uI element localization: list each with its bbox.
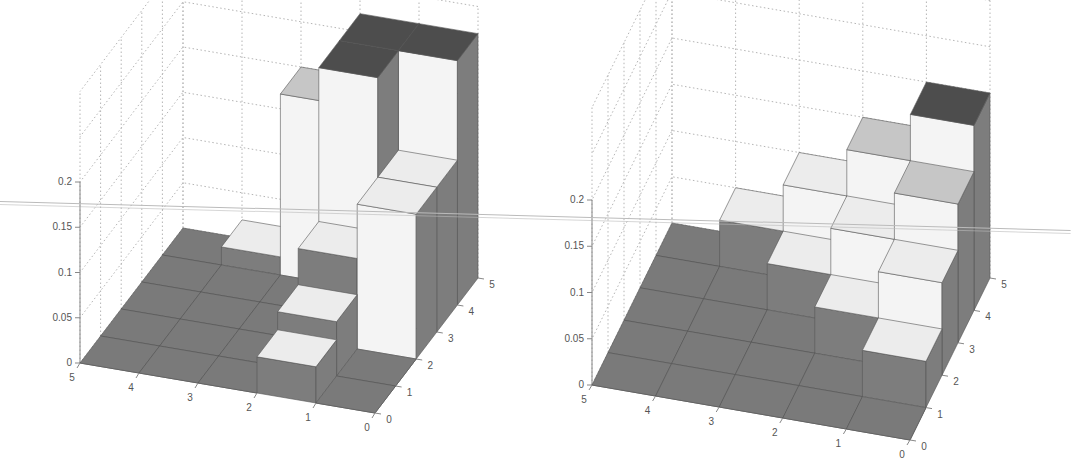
- z-tick-label: 0.1: [570, 287, 584, 298]
- y-tick-label: 1: [407, 387, 413, 398]
- y-tick-label: 1: [937, 409, 943, 420]
- right-chart-canvas: 00.050.10.150.2012345012345: [530, 0, 1071, 471]
- y-tick-label: 0: [386, 414, 392, 425]
- x-tick-label: 0: [899, 449, 905, 460]
- z-tick-label: 0: [66, 357, 72, 368]
- y-tick-label: 5: [1001, 279, 1007, 290]
- z-tick-label: 0.1: [58, 267, 72, 278]
- y-tick-label: 4: [469, 306, 475, 317]
- bar-cell: [357, 177, 437, 359]
- y-tick-label: 3: [969, 344, 975, 355]
- y-tick-label: 5: [489, 279, 495, 290]
- bars: [592, 82, 990, 440]
- z-tick-label: 0.15: [565, 240, 585, 251]
- x-tick-label: 3: [708, 416, 714, 427]
- x-tick-label: 5: [581, 394, 587, 405]
- x-tick-label: 1: [836, 438, 842, 449]
- y-tick-label: 0: [921, 441, 927, 452]
- x-tick-label: 2: [772, 427, 778, 438]
- y-tick-label: 4: [985, 311, 991, 322]
- z-tick-label: 0.05: [565, 333, 585, 344]
- z-tick-label: 0.2: [58, 176, 72, 187]
- z-tick-label: 0: [578, 379, 584, 390]
- z-axis: 00.050.10.150.2: [565, 194, 592, 390]
- x-tick-label: 5: [69, 372, 75, 383]
- bar-cell: [862, 318, 942, 408]
- z-tick-label: 0.2: [570, 194, 584, 205]
- y-tick-label: 2: [953, 376, 959, 387]
- right-3d-bar-chart: 00.050.10.150.2012345012345: [530, 0, 1071, 471]
- y-tick-label: 3: [448, 333, 454, 344]
- y-tick-label: 2: [427, 360, 433, 371]
- x-tick-label: 4: [128, 382, 134, 393]
- x-tick-label: 4: [645, 405, 651, 416]
- x-tick-label: 3: [187, 392, 193, 403]
- z-tick-label: 0.05: [53, 312, 73, 323]
- z-tick-label: 0.15: [53, 221, 73, 232]
- left-3d-bar-chart: 00.050.10.150.2012345012345: [0, 0, 540, 471]
- x-tick-label: 1: [305, 412, 311, 423]
- x-tick-label: 0: [364, 422, 370, 433]
- left-chart-canvas: 00.050.10.150.2012345012345: [0, 0, 540, 471]
- x-tick-label: 2: [246, 402, 252, 413]
